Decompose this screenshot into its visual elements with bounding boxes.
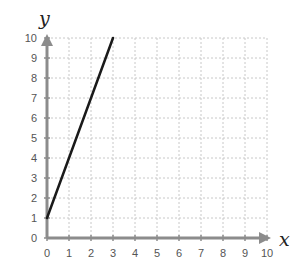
x-tick-label: 9 [242,247,248,259]
data-line [47,38,113,218]
y-tick-label: 3 [31,172,37,184]
x-tick-label: 5 [154,247,160,259]
y-tick-label: 4 [31,152,37,164]
y-tick-label: 6 [31,112,37,124]
x-tick-label: 7 [198,247,204,259]
y-tick-label: 1 [31,212,37,224]
y-tick-label: 10 [25,32,37,44]
x-tick-label: 1 [66,247,72,259]
tick-labels: 012345678910012345678910 [25,32,273,259]
y-tick-label: 5 [31,132,37,144]
y-tick-label: 0 [31,232,37,244]
x-tick-label: 10 [261,247,273,259]
x-tick-label: 4 [132,247,138,259]
x-tick-label: 8 [220,247,226,259]
x-axis-label: x [279,228,290,250]
line-chart: 012345678910012345678910 x y [0,0,305,277]
data-series [47,38,113,218]
x-tick-label: 3 [110,247,116,259]
y-tick-label: 7 [31,92,37,104]
grid-lines [47,38,267,238]
y-axis-arrow-icon [41,34,53,46]
x-tick-label: 2 [88,247,94,259]
y-axis-label: y [38,7,50,29]
y-tick-label: 2 [31,192,37,204]
x-axis-arrow-icon [259,232,271,244]
x-tick-label: 0 [44,247,50,259]
x-tick-label: 6 [176,247,182,259]
y-tick-label: 9 [31,52,37,64]
y-tick-label: 8 [31,72,37,84]
